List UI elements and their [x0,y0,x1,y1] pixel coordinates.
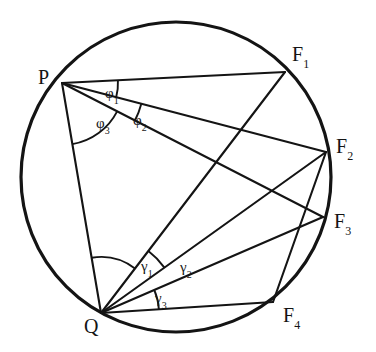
angle-arc-gamma1 [92,257,135,268]
point-label-F3: F3 [334,211,351,235]
chord-Q-F3 [101,217,323,313]
chord-F4-F2 [273,152,326,302]
point-label-F1-subscript: 1 [303,57,309,71]
point-label-F4-text: F [283,304,294,326]
angle-label-phi3: φ3 [96,116,110,134]
angle-label-gamma3-subscript: 3 [162,300,167,311]
circle-layer [21,22,331,332]
angle-arc-phi3 [72,111,117,144]
angle-label-gamma2-symbol: γ [180,259,187,275]
angle-label-gamma2-subscript: 2 [187,269,192,280]
point-label-Q-text: Q [84,315,98,337]
angle-label-phi2-subscript: 2 [142,122,147,133]
angle-label-gamma3: γ3 [155,291,167,309]
angle-label-phi3-symbol: φ [96,115,105,131]
chord-P-F1 [62,72,285,83]
chord-Q-F2 [101,152,326,313]
point-label-F2: F2 [336,136,353,160]
angle-label-gamma1-symbol: γ [141,258,148,274]
angle-label-phi2: φ2 [133,113,147,131]
angle-label-gamma2: γ2 [180,260,192,278]
angle-label-phi1-symbol: φ [105,85,114,101]
angle-label-gamma1-subscript: 1 [148,268,153,279]
point-label-P: P [38,67,49,87]
circumscribed-circle [21,22,331,332]
point-label-F3-subscript: 3 [345,224,351,238]
point-label-F1: F1 [292,44,309,68]
angle-label-phi3-subscript: 3 [105,125,110,136]
point-label-F2-subscript: 2 [347,149,353,163]
chord-Q-F1 [101,72,285,313]
chord-layer [62,72,326,313]
geometry-figure: PQF1F2F3F4φ1φ2φ3γ1γ2γ3 [0,0,376,352]
point-label-F4: F4 [283,305,300,329]
angle-label-phi1: φ1 [105,86,119,104]
chord-Q-F4 [101,302,273,313]
chord-P-F3 [62,83,323,217]
point-label-Q: Q [84,316,98,336]
point-label-F3-text: F [334,210,345,232]
point-label-F1-text: F [292,43,303,65]
angle-label-gamma3-symbol: γ [155,290,162,306]
angle-label-phi1-subscript: 1 [114,95,119,106]
point-label-F2-text: F [336,135,347,157]
figure-canvas [0,0,376,352]
angle-label-phi2-symbol: φ [133,112,142,128]
point-label-F4-subscript: 4 [294,318,300,332]
point-label-P-text: P [38,66,49,88]
angle-label-gamma1: γ1 [141,259,153,277]
